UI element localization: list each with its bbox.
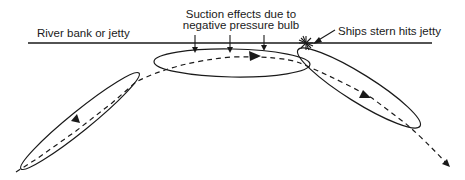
direction-arrow-icon xyxy=(359,90,371,98)
ship-bank-effect-diagram: River bank or jetty Suction effects due … xyxy=(0,0,465,180)
direction-arrow-icon xyxy=(442,159,450,167)
impact-label: Ships stern hits jetty xyxy=(338,25,441,37)
ship-position-2 xyxy=(154,48,310,79)
ship-position-3 xyxy=(291,38,428,138)
suction-arrow-icon xyxy=(227,35,233,53)
ship-track-path xyxy=(16,57,448,172)
bank-label: River bank or jetty xyxy=(37,27,130,39)
direction-arrow-icon xyxy=(71,114,80,123)
impact-star-icon xyxy=(299,36,313,50)
impact-pointer-arrow-icon xyxy=(313,30,335,44)
suction-label-line2: negative pressure bulb xyxy=(183,19,299,31)
direction-arrow-icon xyxy=(249,51,261,61)
